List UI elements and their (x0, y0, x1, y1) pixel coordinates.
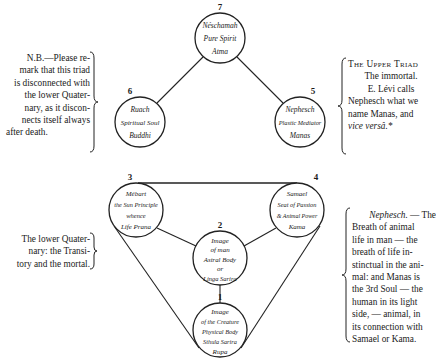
note-line: life in man — the (352, 234, 436, 246)
svg-text:Rupa: Rupa (212, 348, 228, 356)
note-lead-italic: Nephesch. (369, 210, 407, 220)
svg-text:Linga Sarira: Linga Sarira (202, 275, 236, 282)
svg-text:6: 6 (128, 86, 133, 96)
svg-text:Seat of Passion: Seat of Passion (278, 201, 317, 208)
note-line: The lower Quater- (4, 233, 90, 245)
note-line: stinctual in the ani- (352, 259, 436, 271)
note-lead-rest: — The (408, 210, 436, 220)
note-line: is disconnected with (6, 77, 90, 89)
svg-text:of the Creature: of the Creature (201, 318, 239, 325)
svg-text:Astral Body: Astral Body (203, 256, 237, 263)
note-line: nects itself always (6, 114, 90, 126)
brace-upper-right (338, 58, 346, 154)
line-7-5 (237, 57, 283, 103)
svg-text:the Sun Principle: the Sun Principle (114, 201, 158, 208)
node-1-rupa: 1 Image of the Creature Physical Body St… (193, 292, 247, 357)
brace-lower-right (342, 208, 350, 342)
note-line: vice versâ.* (348, 120, 434, 132)
line-3-2 (157, 228, 196, 246)
note-line: mal: and Manas is (352, 271, 436, 283)
note-upper-left: N.B.—Please re- mark that this triad is … (6, 52, 90, 139)
svg-text:Manas: Manas (289, 131, 310, 140)
svg-text:Spiritual Soul: Spiritual Soul (121, 119, 160, 127)
svg-text:4: 4 (314, 172, 319, 182)
svg-text:Néschamah: Néschamah (202, 21, 238, 30)
note-line: side, — animal, in (352, 308, 436, 320)
node-3-prana: 3 Mébart the Sun Principle whence Life P… (109, 172, 163, 237)
note-line: nary, as it discon- (6, 102, 90, 114)
svg-text:Ruach: Ruach (129, 105, 149, 114)
svg-text:Buddhi: Buddhi (129, 131, 151, 140)
svg-text:Atma: Atma (211, 47, 228, 56)
brace-lower-left (90, 233, 97, 269)
note-line: the 3rd Soul — the (352, 283, 436, 295)
note-lower-right: Nephesch. — The Breath of animal life in… (352, 209, 436, 345)
svg-text:Kama: Kama (288, 223, 306, 231)
note-line: mark that this triad (6, 64, 90, 76)
node-6-buddhi: 6 Ruach Spiritual Soul Buddhi (115, 86, 165, 147)
svg-text:Physical Body: Physical Body (201, 328, 238, 335)
node-7-atma: 7 Néschamah Pure Spirit Atma (195, 2, 245, 63)
note-line: the lower Quater- (6, 89, 90, 101)
line-7-6 (157, 57, 203, 103)
svg-text:Image: Image (210, 308, 229, 316)
svg-text:1: 1 (218, 292, 223, 302)
note-lead-line: Nephesch. — The (352, 209, 436, 221)
note-line: nary: the Transi- (4, 245, 90, 257)
note-line: N.B.—Please re- (6, 52, 90, 64)
note-line: E. Lévi calls (348, 83, 434, 95)
svg-text:3: 3 (128, 172, 133, 182)
note-line: human in its light (352, 296, 436, 308)
svg-text:2: 2 (218, 220, 223, 230)
note-line: Samael or Kama. (352, 333, 436, 345)
note-line: tory and the mortal. (4, 258, 90, 270)
note-line: breath of life in- (352, 246, 436, 258)
note-upper-right: The Upper Triad The immortal. E. Lévi ca… (348, 58, 434, 132)
svg-text:& Animal Power: & Animal Power (277, 213, 318, 219)
svg-text:7: 7 (218, 2, 223, 12)
svg-text:whence: whence (126, 212, 146, 219)
svg-text:of man: of man (210, 246, 230, 254)
node-4-kama: 4 Samael Seat of Passion & Animal Power … (270, 172, 324, 237)
note-heading: The Upper Triad (348, 58, 434, 70)
node-5-manas: 5 Nephesch Plastic Mediator Manas (275, 86, 325, 147)
svg-text:Image: Image (210, 237, 229, 245)
brace-upper-left (90, 52, 98, 152)
svg-text:Plastic Mediator: Plastic Mediator (278, 119, 322, 126)
note-lower-left: The lower Quater- nary: the Transi- tory… (4, 233, 90, 270)
node-2-linga-sarira: 2 Image of man Astral Body or Linga Sari… (193, 220, 247, 285)
note-line: after death. (6, 126, 90, 138)
note-line: Breath of animal (352, 221, 436, 233)
svg-text:Samael: Samael (287, 190, 308, 198)
line-3-1 (114, 226, 199, 348)
svg-text:Nephesch: Nephesch (284, 105, 314, 114)
svg-text:5: 5 (311, 86, 316, 96)
line-4-2 (244, 228, 276, 246)
svg-text:or: or (217, 265, 224, 273)
svg-text:Mébart: Mébart (125, 190, 148, 198)
note-line: its connection with (352, 321, 436, 333)
note-line: Nephesch what we (348, 95, 434, 107)
note-line: The immortal. (348, 70, 434, 82)
svg-text:Pure Spirit: Pure Spirit (203, 34, 238, 43)
svg-text:Sthula Sarira: Sthula Sarira (203, 338, 237, 345)
line-4-1 (241, 226, 320, 348)
note-line: name Manas, and (348, 108, 434, 120)
svg-text:Life Prana: Life Prana (120, 223, 152, 231)
